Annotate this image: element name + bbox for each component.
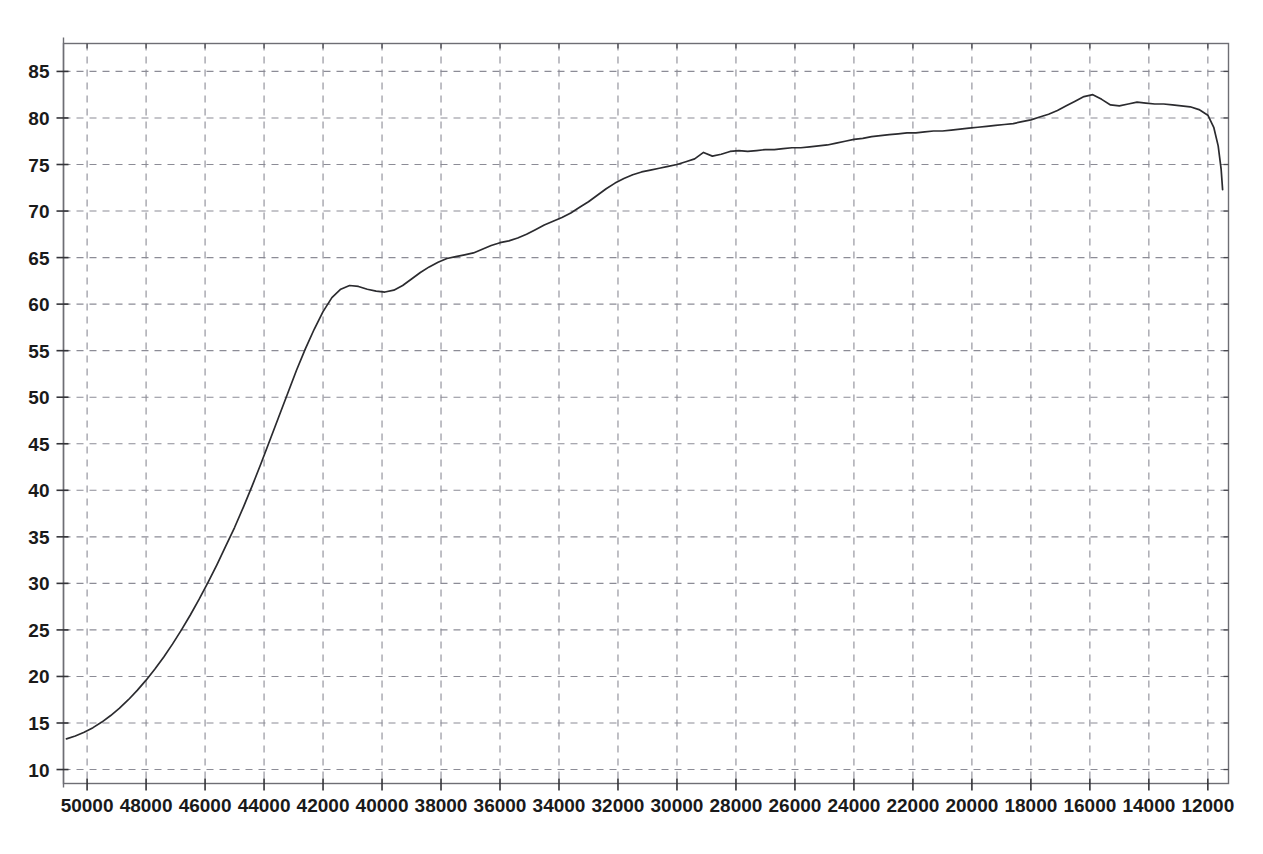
y-axis-tick-label: 45	[28, 434, 50, 455]
x-axis-tick-label: 24000	[828, 795, 881, 816]
y-axis-tick-label: 50	[28, 387, 49, 408]
x-axis-tick-label: 22000	[886, 795, 939, 816]
y-axis-tick-label: 35	[28, 527, 50, 548]
x-axis-tick-label: 16000	[1063, 795, 1116, 816]
y-axis-tick-label: 25	[28, 620, 50, 641]
x-axis-tick-label: 18000	[1004, 795, 1057, 816]
y-axis-tick-label: 70	[28, 201, 49, 222]
x-axis-tick-label: 38000	[415, 795, 468, 816]
x-axis-tick-label: 28000	[710, 795, 763, 816]
x-axis-tick-label: 14000	[1122, 795, 1175, 816]
x-axis-tick-label: 44000	[238, 795, 291, 816]
x-axis-tick-label: 50000	[61, 795, 114, 816]
x-axis-tick-label: 34000	[533, 795, 586, 816]
y-axis-tick-label: 15	[28, 713, 50, 734]
x-axis-tick-label: 36000	[474, 795, 527, 816]
y-axis-tick-label: 80	[28, 108, 49, 129]
x-axis-tick-label: 32000	[592, 795, 645, 816]
line-chart-plot: 10152025303540455055606570758085 5000048…	[0, 0, 1263, 854]
x-axis-tick-label: 42000	[297, 795, 350, 816]
x-axis-tick-label: 12000	[1181, 795, 1234, 816]
y-axis-tick-label: 40	[28, 480, 49, 501]
y-axis-tick-label: 55	[28, 341, 50, 362]
x-axis-tick-label: 30000	[651, 795, 704, 816]
x-axis-tick-label: 48000	[120, 795, 173, 816]
y-axis-tick-label: 10	[28, 760, 49, 781]
y-axis-tick-label: 65	[28, 248, 50, 269]
figure-background	[0, 0, 1263, 854]
y-axis-tick-label: 75	[28, 155, 50, 176]
chart-figure: 10152025303540455055606570758085 5000048…	[0, 0, 1263, 854]
y-axis-tick-label: 60	[28, 294, 49, 315]
x-axis-tick-label: 40000	[356, 795, 409, 816]
x-axis-tick-label: 20000	[945, 795, 998, 816]
x-axis-tick-label: 26000	[769, 795, 822, 816]
y-axis-tick-label: 20	[28, 666, 49, 687]
y-axis-tick-label: 30	[28, 573, 49, 594]
x-axis-tick-label: 46000	[179, 795, 232, 816]
y-axis-tick-label: 85	[28, 61, 50, 82]
